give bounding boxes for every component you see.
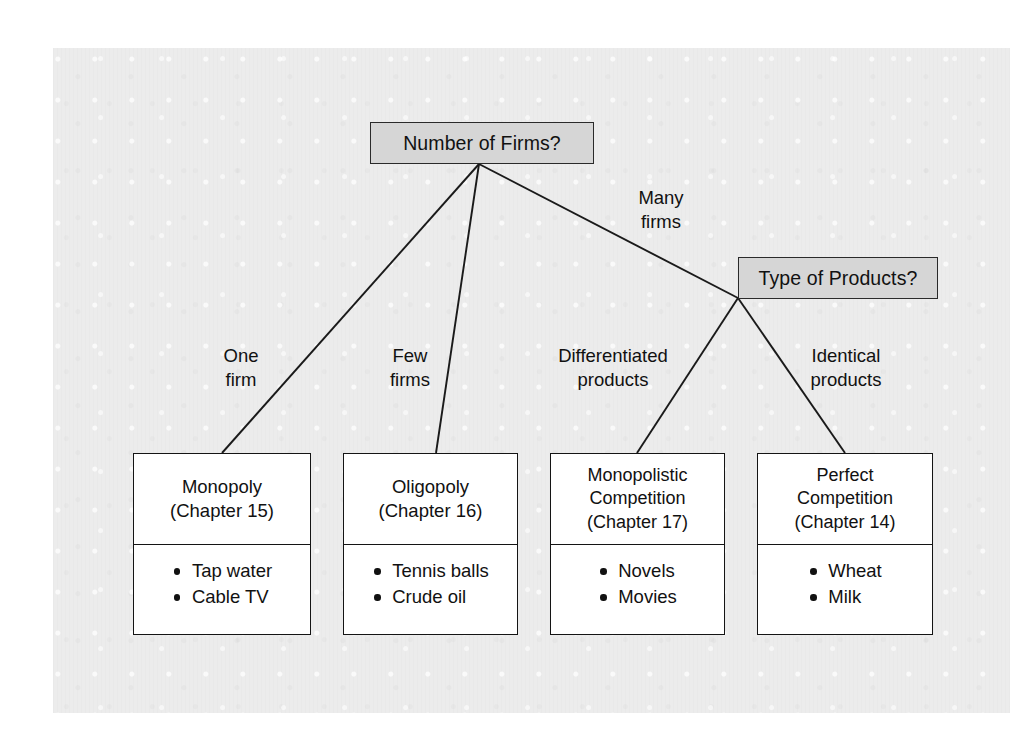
decision-label-type-of-products: Type of Products? — [759, 267, 918, 290]
list-item: Wheat — [808, 558, 881, 584]
outcome-box-monopolistic-competition: Monopolistic Competition (Chapter 17) No… — [550, 453, 725, 635]
list-item: Novels — [598, 558, 677, 584]
list-item: Crude oil — [372, 584, 489, 610]
outcome-title-oligopoly: Oligopoly (Chapter 16) — [344, 454, 517, 545]
list-item: Tap water — [172, 558, 272, 584]
outcome-box-perfect-competition: Perfect Competition (Chapter 14) Wheat M… — [757, 453, 933, 635]
edge-label-few-firms: Few firms — [371, 344, 449, 393]
edge-label-identical-products: Identical products — [786, 344, 906, 393]
list-item: Movies — [598, 584, 677, 610]
decision-label-number-of-firms: Number of Firms? — [403, 132, 561, 155]
diagram-canvas: Number of Firms? Type of Products? One f… — [0, 0, 1034, 731]
outcome-title-perfect-competition: Perfect Competition (Chapter 14) — [758, 454, 932, 545]
outcome-title-monopoly: Monopoly (Chapter 15) — [134, 454, 310, 545]
decision-node-number-of-firms: Number of Firms? — [370, 122, 594, 164]
list-item: Milk — [808, 584, 881, 610]
outcome-examples-perfect-competition: Wheat Milk — [758, 545, 932, 634]
list-item: Cable TV — [172, 584, 272, 610]
outcome-examples-monopoly: Tap water Cable TV — [134, 545, 310, 634]
outcome-title-monopolistic-competition: Monopolistic Competition (Chapter 17) — [551, 454, 724, 545]
edge-label-one-firm: One firm — [205, 344, 277, 393]
outcome-box-oligopoly: Oligopoly (Chapter 16) Tennis balls Crud… — [343, 453, 518, 635]
outcome-examples-oligopoly: Tennis balls Crude oil — [344, 545, 517, 634]
edge-label-many-firms: Many firms — [619, 186, 703, 235]
list-item: Tennis balls — [372, 558, 489, 584]
outcome-examples-monopolistic-competition: Novels Movies — [551, 545, 724, 634]
outcome-box-monopoly: Monopoly (Chapter 15) Tap water Cable TV — [133, 453, 311, 635]
edge-label-differentiated-products: Differentiated products — [533, 344, 693, 393]
decision-node-type-of-products: Type of Products? — [738, 257, 938, 299]
